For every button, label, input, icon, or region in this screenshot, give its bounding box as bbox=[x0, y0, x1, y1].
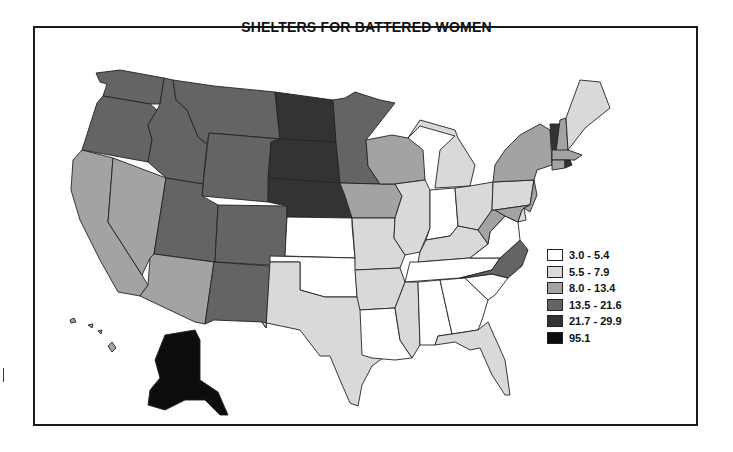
hi-islands bbox=[70, 318, 102, 334]
state-hi[interactable] bbox=[108, 342, 116, 352]
state-ri[interactable] bbox=[565, 160, 572, 168]
legend-item: 21.7 - 29.9 bbox=[547, 313, 622, 330]
legend-item: 95.1 bbox=[547, 330, 622, 347]
legend-label: 95.1 bbox=[569, 332, 590, 344]
state-ks[interactable] bbox=[285, 217, 355, 258]
legend-swatch bbox=[547, 299, 563, 311]
legend-swatch bbox=[547, 282, 563, 294]
legend-item: 8.0 - 13.4 bbox=[547, 280, 622, 297]
legend-label: 8.0 - 13.4 bbox=[569, 282, 615, 294]
legend-item: 3.0 - 5.4 bbox=[547, 247, 622, 264]
state-ny[interactable] bbox=[493, 124, 552, 182]
state-az[interactable] bbox=[140, 254, 214, 324]
state-ct[interactable] bbox=[552, 160, 565, 170]
state-wi[interactable] bbox=[366, 135, 425, 184]
state-ak[interactable] bbox=[148, 330, 228, 415]
state-ma[interactable] bbox=[552, 150, 582, 160]
state-nd[interactable] bbox=[275, 92, 336, 142]
state-or[interactable] bbox=[82, 96, 157, 162]
legend-label: 21.7 - 29.9 bbox=[569, 315, 622, 327]
legend-label: 13.5 - 21.6 bbox=[569, 299, 622, 311]
legend-label: 3.0 - 5.4 bbox=[569, 249, 609, 261]
legend-item: 5.5 - 7.9 bbox=[547, 264, 622, 281]
state-sd[interactable] bbox=[268, 139, 340, 183]
legend-swatch bbox=[547, 249, 563, 261]
state-nm[interactable] bbox=[205, 262, 270, 328]
us-choropleth-map bbox=[0, 0, 733, 452]
state-me[interactable] bbox=[566, 80, 610, 150]
legend-swatch bbox=[547, 332, 563, 344]
legend-swatch bbox=[547, 315, 563, 327]
legend: 3.0 - 5.4 5.5 - 7.9 8.0 - 13.4 13.5 - 21… bbox=[547, 247, 622, 346]
legend-item: 13.5 - 21.6 bbox=[547, 297, 622, 314]
legend-label: 5.5 - 7.9 bbox=[569, 266, 609, 278]
legend-swatch bbox=[547, 266, 563, 278]
